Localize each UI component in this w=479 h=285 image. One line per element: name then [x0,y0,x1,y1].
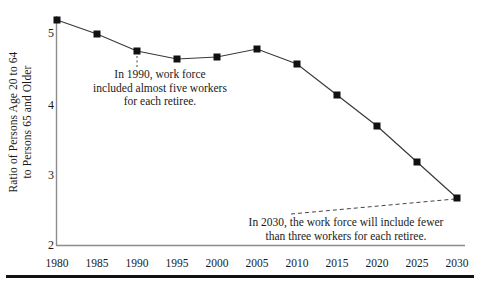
x-tick-label-2015: 2015 [315,257,359,269]
data-point-2030 [454,195,461,202]
data-point-2015 [334,92,341,99]
chart-figure: Ratio of Persons Age 20 to 64 to Persons… [0,0,479,285]
data-point-1985 [94,31,101,38]
annotation-1990-line-3: for each retiree. [70,95,250,109]
data-point-2005 [254,46,261,53]
x-tick-label-2030: 2030 [435,257,479,269]
annotation-1990: In 1990, work force included almost five… [70,68,250,109]
data-point-2010 [294,61,301,68]
data-point-1980 [54,17,61,24]
x-tick-label-2005: 2005 [235,257,279,269]
annotation-1990-line-2: included almost five workers [70,82,250,96]
x-tick-label-1980: 1980 [35,257,79,269]
annotation-leader-2030 [291,199,455,214]
annotation-2030: In 2030, the work force will include few… [222,216,470,243]
data-point-1990 [134,48,141,55]
x-tick-label-1990: 1990 [115,257,159,269]
bottom-divider-rule [6,275,474,278]
annotation-2030-line-1: In 2030, the work force will include few… [222,216,470,230]
annotation-1990-line-1: In 1990, work force [70,68,250,82]
x-tick-label-2025: 2025 [395,257,439,269]
annotation-2030-line-2: than three workers for each retiree. [222,230,470,244]
x-tick-label-1985: 1985 [75,257,119,269]
x-tick-label-1995: 1995 [155,257,199,269]
x-tick-label-2010: 2010 [275,257,319,269]
data-point-1995 [174,56,181,63]
data-point-2020 [374,123,381,130]
data-point-2000 [214,54,221,61]
x-tick-label-2020: 2020 [355,257,399,269]
data-point-2025 [414,159,421,166]
x-tick-label-2000: 2000 [195,257,239,269]
